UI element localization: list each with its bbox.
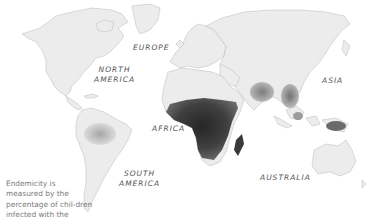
label-south-america: SOUTH AMERICA — [119, 169, 160, 189]
label-asia: ASIA — [322, 76, 343, 86]
label-europe: EUROPE — [133, 43, 170, 53]
label-north-america: NORTH AMERICA — [94, 65, 135, 85]
map-caption: Endemicity is measured by the percentage… — [6, 179, 94, 221]
label-north-america-line1: NORTH — [94, 65, 135, 75]
label-north-america-line2: AMERICA — [94, 75, 135, 85]
north-america-landmass — [22, 4, 160, 110]
label-australia: AUSTRALIA — [260, 173, 311, 183]
label-africa: AFRICA — [152, 124, 185, 134]
label-south-america-line1: SOUTH — [119, 169, 160, 179]
label-south-america-line2: AMERICA — [119, 179, 160, 189]
australia-landmass — [312, 140, 366, 188]
